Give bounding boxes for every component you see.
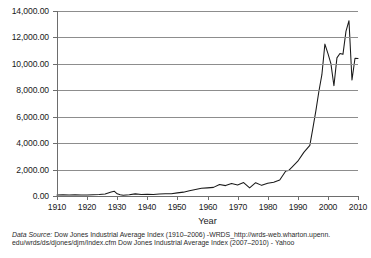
source-caption-label: Data Source: (12, 231, 52, 238)
gridline-y-4000 (57, 143, 358, 144)
y-axis-label-4000: 4,000.00 (16, 139, 49, 148)
y-axis-label-6000: 6,000.00 (16, 113, 49, 122)
x-tick-1980 (268, 196, 269, 200)
gridline-y-8000 (57, 90, 358, 91)
x-tick-1930 (117, 196, 118, 200)
plot-area (57, 11, 358, 196)
x-tick-1940 (147, 196, 148, 200)
x-tick-2010 (358, 196, 359, 200)
x-tick-1910 (57, 196, 58, 200)
gridline-y-10000 (57, 64, 358, 65)
x-tick-2000 (328, 196, 329, 200)
y-axis-line (57, 11, 58, 197)
y-axis-label-10000: 10,000.00 (12, 60, 49, 69)
x-tick-1960 (208, 196, 209, 200)
x-tick-1970 (238, 196, 239, 200)
source-caption: Data Source: Dow Jones Industrial Averag… (12, 231, 364, 247)
dow-jones-series-line (57, 11, 358, 196)
dow-jones-line-chart-figure: 14,000.0012,000.0010,000.008,000.006,000… (0, 0, 371, 258)
x-axis-title: Year (57, 216, 358, 226)
x-axis-label-2010: 2010 (338, 202, 371, 212)
gridline-y-14000 (57, 11, 358, 12)
y-axis-label-2000: 2,000.00 (16, 166, 49, 175)
gridline-y-6000 (57, 117, 358, 118)
gridline-y-12000 (57, 37, 358, 38)
y-axis-label-14000: 14,000.00 (12, 7, 49, 16)
source-caption-line-1: Data Source: Dow Jones Industrial Averag… (12, 231, 364, 239)
x-tick-1950 (177, 196, 178, 200)
x-tick-1920 (87, 196, 88, 200)
y-axis-label-12000: 12,000.00 (12, 33, 49, 42)
x-tick-1990 (298, 196, 299, 200)
source-caption-line-1-text: Dow Jones Industrial Average Index (1910… (52, 231, 330, 238)
source-caption-line-2: edu/wrds/ds/djones/djm/Index.cfm Dow Jon… (12, 239, 364, 247)
y-axis-label-0: 0.00 (33, 192, 49, 201)
gridline-y-2000 (57, 170, 358, 171)
y-axis-label-8000: 8,000.00 (16, 86, 49, 95)
